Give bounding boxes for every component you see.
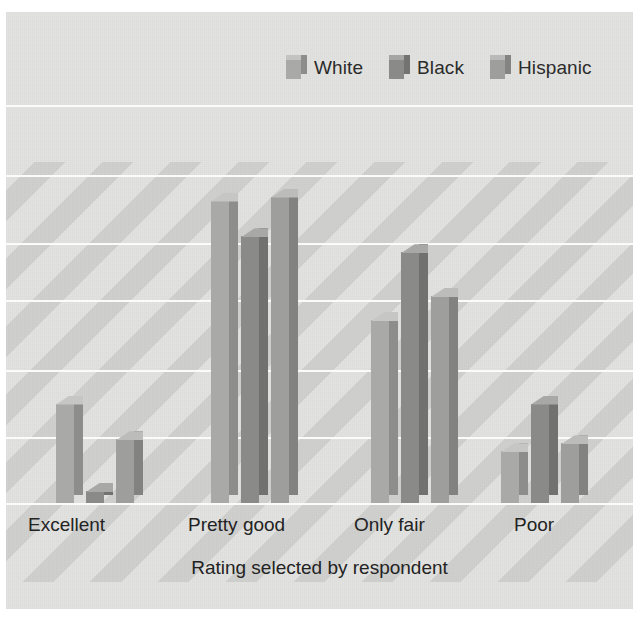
bar-front-face (116, 439, 134, 503)
legend: White Black Hispanic (286, 54, 592, 80)
legend-swatch-cube-icon (286, 55, 307, 79)
bar-top-face (271, 189, 298, 198)
legend-swatch-cube-icon (389, 55, 410, 79)
bar-excellent-hispanic (116, 439, 134, 503)
bar-front-face (56, 404, 74, 504)
bar-front-face (431, 296, 449, 503)
bar-top-face (211, 193, 238, 202)
bar-top-face (241, 228, 268, 237)
bar-pretty-good-black (241, 236, 259, 503)
bar-only-fair-black (401, 252, 419, 503)
bar-side-face (389, 312, 398, 495)
bar-top-face (56, 396, 83, 405)
legend-label: Black (417, 58, 464, 77)
bar-excellent-white (56, 404, 74, 504)
bar-excellent-black (86, 491, 104, 503)
bar-front-face (561, 443, 579, 503)
x-tick-label-excellent: Excellent (28, 514, 105, 536)
bar-front-face (86, 491, 104, 503)
bar-top-face (431, 288, 458, 297)
bar-top-face (561, 435, 588, 444)
bar-only-fair-hispanic (431, 296, 449, 503)
bar-side-face (419, 244, 428, 495)
bar-top-face (501, 443, 528, 452)
bar-pretty-good-hispanic (271, 197, 289, 503)
legend-label: Hispanic (518, 58, 592, 77)
bar-side-face (259, 228, 268, 495)
bar-top-face (371, 312, 398, 321)
x-tick-label-only-fair: Only fair (354, 514, 425, 536)
bar-side-face (549, 396, 558, 496)
bar-front-face (371, 320, 389, 503)
bar-side-face (229, 193, 238, 495)
legend-swatch-cube-icon (490, 55, 511, 79)
bar-front-face (271, 197, 289, 503)
bar-side-face (134, 431, 143, 495)
legend-entry-white: White (286, 55, 363, 79)
bar-chart: White Black Hispanic (0, 0, 639, 634)
bar-front-face (531, 404, 549, 504)
bar-front-face (211, 201, 229, 503)
chart-panel: White Black Hispanic (6, 12, 633, 609)
bar-only-fair-white (371, 320, 389, 503)
bar-top-face (401, 244, 428, 253)
bar-front-face (501, 451, 519, 503)
legend-entry-black: Black (389, 55, 464, 79)
legend-entry-hispanic: Hispanic (490, 55, 592, 79)
bar-top-face (531, 396, 558, 405)
x-axis-title: Rating selected by respondent (6, 557, 633, 579)
legend-label: White (314, 58, 363, 77)
bar-side-face (74, 396, 83, 496)
x-tick-label-pretty-good: Pretty good (188, 514, 285, 536)
bar-side-face (289, 189, 298, 495)
bar-front-face (241, 236, 259, 503)
x-tick-label-poor: Poor (514, 514, 554, 536)
bar-top-face (116, 431, 143, 440)
bar-top-face (86, 483, 113, 492)
bar-poor-black (531, 404, 549, 504)
bar-poor-white (501, 451, 519, 503)
bar-side-face (449, 288, 458, 495)
bar-poor-hispanic (561, 443, 579, 503)
bar-pretty-good-white (211, 201, 229, 503)
bar-front-face (401, 252, 419, 503)
